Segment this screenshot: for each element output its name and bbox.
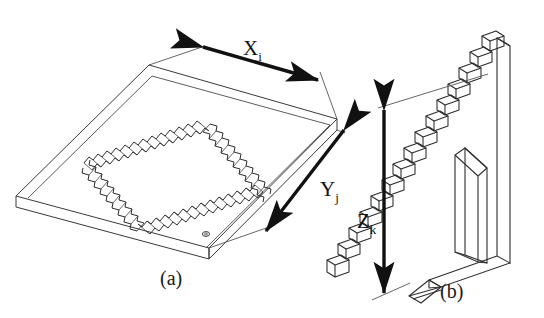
caption-a: (a) (160, 267, 182, 290)
y-symbol: Y (320, 177, 335, 201)
x-subscript: i (258, 49, 262, 64)
x-symbol: X (243, 36, 258, 60)
canvas-background (0, 0, 544, 318)
z-subscript: k (370, 222, 377, 237)
figure-canvas: Xi Yj (a) (0, 0, 544, 318)
y-subscript: j (334, 190, 339, 205)
z-symbol: Z (357, 209, 370, 233)
caption-b: (b) (440, 280, 463, 303)
technical-diagram: Xi Yj (a) (0, 0, 544, 318)
